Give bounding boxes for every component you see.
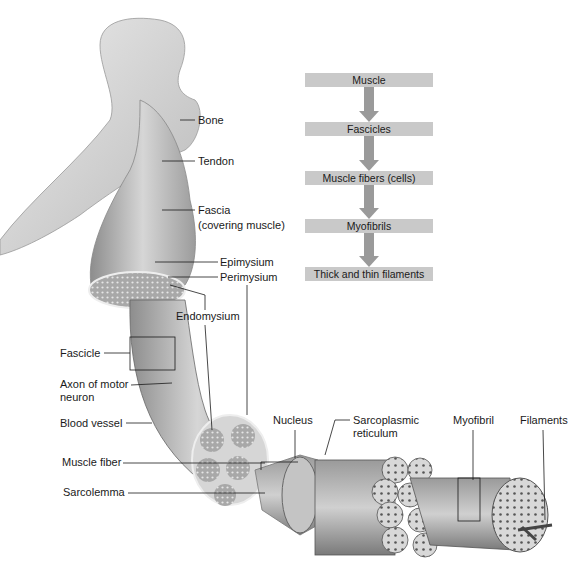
down-arrow-icon [359, 87, 379, 122]
label-filaments: Filaments [520, 414, 568, 427]
flow-box-muscle: Muscle [305, 73, 433, 87]
flow-box-fascicles: Fascicles [305, 122, 433, 136]
label-sarcolemma: Sarcolemma [63, 486, 125, 499]
flow-box-muscle-fibers: Muscle fibers (cells) [305, 171, 433, 185]
label-perimysium: Perimysium [220, 271, 277, 284]
label-muscle-fiber: Muscle fiber [62, 456, 121, 469]
label-epimysium: Epimysium [220, 256, 274, 269]
label-axon-sub: neuron [60, 391, 94, 404]
label-nucleus: Nucleus [273, 414, 313, 427]
label-sarcoplasmic-sub: reticulum [353, 427, 398, 440]
down-arrow-icon [359, 185, 379, 219]
flow-box-myofibrils: Myofibrils [305, 219, 433, 233]
flow-box-filaments: Thick and thin filaments [305, 267, 433, 281]
label-endomysium: Endomysium [176, 310, 240, 323]
label-fascicle: Fascicle [60, 347, 100, 360]
label-tendon: Tendon [198, 155, 234, 168]
down-arrow-icon [359, 233, 379, 267]
label-bone: Bone [198, 114, 224, 127]
down-arrow-icon [359, 136, 379, 171]
label-axon: Axon of motor [60, 378, 128, 391]
label-fascia: Fascia [198, 204, 230, 217]
label-fascia-sub: (covering muscle) [198, 219, 285, 232]
label-sarcoplasmic: Sarcoplasmic [353, 414, 419, 427]
label-blood-vessel: Blood vessel [60, 417, 122, 430]
myofibril-end [492, 478, 548, 552]
label-myofibril: Myofibril [453, 414, 494, 427]
